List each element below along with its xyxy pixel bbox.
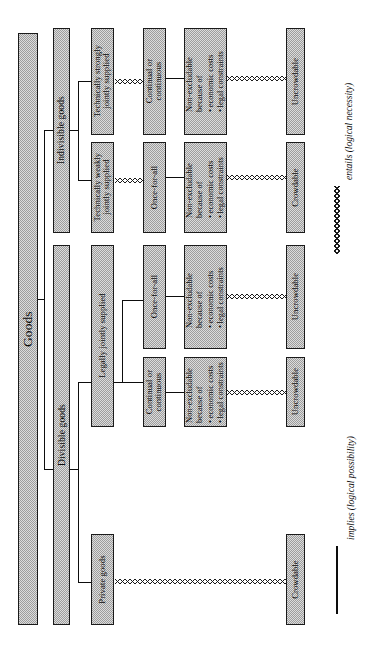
legend-entails: entails (logical necessity) [330,30,366,300]
non-excludable-line2: because of [195,181,204,218]
node-divisible-goods[interactable]: Divisible goods [53,245,70,625]
legend-entails-label: entails (logical necessity) [344,83,354,180]
entails-strong-to-continual [115,78,143,85]
node-private-goods[interactable]: Private goods [91,534,114,625]
non-excludable-bullets-2: economic costs legal constraints [206,157,227,218]
node-goods-label: Goods [21,311,35,347]
node-continual-or-continuous-1[interactable]: Continual orcontinuous [143,28,166,135]
node-non-excludable-4[interactable]: Non-excludable because of economic costs… [184,357,227,427]
node-once-for-all-1[interactable]: Once-for-all [143,142,166,233]
implies-continual2-to-nonexcl4 [166,392,184,393]
entails-nonexcl3-to-uncrowdable2 [227,293,286,300]
non-excludable-bullets-4: economic costs legal constraints [206,362,227,423]
bullet-economic-costs: economic costs [206,267,216,328]
node-uncrowdable-1[interactable]: Uncrowdable [286,28,305,135]
node-indivisible-goods-label: Indivisible goods [56,96,66,164]
bullet-legal-constraints: legal constraints [216,362,226,423]
legend-implies: implies (logical possibility) [330,370,366,650]
legend-implies-label: implies (logical possibility) [346,436,356,540]
legend-solid-line-icon [336,546,338,614]
implies-once2-to-nonexcl3 [166,296,184,297]
node-technically-weakly-jointly-supplied[interactable]: Technically weaklyjointly supplied [91,142,114,233]
non-excludable-line1: Non-excludable [185,368,194,423]
connector-indivisible-to-strong [78,81,92,82]
connector-legal-to-cont2 [122,382,143,383]
non-excludable-line1: Non-excludable [185,273,194,328]
node-divisible-goods-label: Divisible goods [56,404,66,466]
node-non-excludable-3[interactable]: Non-excludable because of economic costs… [184,245,227,349]
non-excludable-line2: because of [195,291,204,328]
node-continual-1-label: Continual orcontinuous [145,59,163,103]
node-tech-weak-label: Technically weaklyjointly supplied [93,153,111,222]
connector-divisible-to-legal [78,382,92,383]
non-excludable-line2: because of [195,75,204,112]
entails-nonexcl2-to-crowdable1 [227,174,286,181]
non-excludable-bullets-1: economic costs legal constraints [206,51,227,112]
node-non-excludable-1-label: Non-excludable because of economic costs… [185,51,226,112]
node-non-excludable-4-label: Non-excludable because of economic costs… [185,362,226,423]
node-legally-jointly-supplied[interactable]: Legally jointly supplied [91,245,114,427]
entails-nonexcl1-to-uncrowdable1 [227,75,286,82]
node-tech-strong-label: Technically stronglyjointly supplied [93,45,111,117]
legend-zigzag-line-icon [334,186,340,254]
connector-root-stub [38,299,45,300]
node-crowdable-2-label: Crowdable [291,560,300,599]
node-indivisible-goods[interactable]: Indivisible goods [53,28,70,233]
bullet-legal-constraints: legal constraints [216,51,226,112]
bullet-legal-constraints: legal constraints [216,157,226,218]
node-non-excludable-2[interactable]: Non-excludable because of economic costs… [184,142,227,233]
bullet-economic-costs: economic costs [206,51,216,112]
node-once-for-all-2[interactable]: Once-for-all [143,245,166,349]
node-once-for-all-2-label: Once-for-all [150,275,159,319]
node-crowdable-2[interactable]: Crowdable [286,534,305,625]
implies-continual1-to-nonexcl1 [166,78,184,79]
entails-private-to-crowdable [115,578,286,585]
connector-indivisible-stub [70,130,79,131]
connector-legal-to-once2 [122,300,143,301]
bullet-economic-costs: economic costs [206,157,216,218]
node-once-for-all-1-label: Once-for-all [150,166,159,210]
node-continual-2-label: Continual orcontinuous [145,370,163,414]
node-uncrowdable-3-label: Uncrowdable [291,368,300,415]
bullet-legal-constraints: legal constraints [216,267,226,328]
node-non-excludable-1[interactable]: Non-excludable because of economic costs… [184,28,227,135]
node-non-excludable-2-label: Non-excludable because of economic costs… [185,157,226,218]
connector-indivisible-to-weak [78,180,92,181]
diagram-canvas: Goods Indivisible goods Divisible goods … [0,0,366,665]
non-excludable-bullets-3: economic costs legal constraints [206,267,227,328]
node-crowdable-1[interactable]: Crowdable [286,142,305,233]
node-technically-strongly-jointly-supplied[interactable]: Technically stronglyjointly supplied [91,28,114,135]
node-goods[interactable]: Goods [18,33,38,625]
connector-legal-vertical [122,300,123,382]
non-excludable-line1: Non-excludable [185,57,194,112]
non-excludable-line1: Non-excludable [185,163,194,218]
non-excludable-line2: because of [195,386,204,423]
node-uncrowdable-2[interactable]: Uncrowdable [286,245,305,349]
node-private-goods-label: Private goods [98,555,107,603]
entails-weak-to-oncefor-all [115,177,143,184]
node-uncrowdable-3[interactable]: Uncrowdable [286,357,305,427]
connector-divisible-to-private [78,582,92,583]
implies-once1-to-nonexcl2 [166,177,184,178]
entails-nonexcl4-to-uncrowdable3 [227,389,286,396]
node-uncrowdable-2-label: Uncrowdable [291,273,300,320]
node-non-excludable-3-label: Non-excludable because of economic costs… [185,267,226,328]
node-uncrowdable-1-label: Uncrowdable [291,58,300,105]
connector-divisible-vertical [78,382,79,582]
node-continual-or-continuous-2[interactable]: Continual orcontinuous [143,357,166,427]
node-legally-joint-label: Legally jointly supplied [98,294,107,379]
connector-divisible-stub [70,469,79,470]
node-crowdable-1-label: Crowdable [291,168,300,207]
bullet-economic-costs: economic costs [206,362,216,423]
